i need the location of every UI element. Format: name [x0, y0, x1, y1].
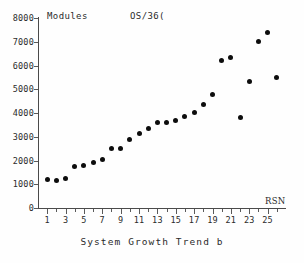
data-point [228, 55, 233, 60]
y-tick-label: 6000 [0, 61, 34, 71]
data-point [72, 164, 77, 169]
data-point [118, 146, 123, 151]
y-tick-label: 0 [0, 203, 34, 213]
x-tick-mark [213, 209, 214, 214]
x-tick-mark [56, 209, 57, 212]
y-tick-label: 2000 [0, 156, 34, 166]
x-tick-label: 15 [170, 215, 181, 225]
y-tick-mark [34, 18, 38, 19]
y-tick-mark [34, 161, 38, 162]
x-tick-mark [66, 209, 67, 214]
x-tick-mark [139, 209, 140, 214]
x-tick-label: 13 [152, 215, 163, 225]
data-point [109, 146, 114, 151]
data-point [54, 178, 59, 183]
x-tick-label: 17 [189, 215, 200, 225]
y-tick-mark [34, 184, 38, 185]
x-tick-mark [176, 209, 177, 214]
x-tick-mark [157, 209, 158, 214]
y-tick-mark [34, 42, 38, 43]
x-tick-mark [194, 209, 195, 214]
x-tick-mark [240, 209, 241, 212]
y-tick-mark [34, 89, 38, 90]
x-tick-mark [84, 209, 85, 214]
x-tick-mark [231, 209, 232, 214]
x-tick-mark [47, 209, 48, 214]
x-tick-mark [93, 209, 94, 212]
y-axis-title: Modules [47, 11, 88, 21]
data-point [164, 120, 169, 125]
x-tick-label: 25 [262, 215, 273, 225]
y-tick-mark [34, 137, 38, 138]
data-point [45, 177, 50, 182]
x-tick-label: 5 [81, 215, 86, 225]
y-tick-label: 3000 [0, 132, 34, 142]
x-tick-label: 19 [207, 215, 218, 225]
chart-figure: Modules OS/36( 0100020003000400050006000… [0, 0, 304, 263]
y-tick-mark [34, 208, 38, 209]
x-tick-mark [268, 209, 269, 214]
x-tick-label: 3 [63, 215, 68, 225]
x-tick-label: 7 [100, 215, 105, 225]
x-tick-mark [203, 209, 204, 212]
x-tick-label: 1 [45, 215, 50, 225]
y-tick-label: 7000 [0, 37, 34, 47]
x-tick-mark [277, 209, 278, 212]
data-point [155, 120, 160, 125]
y-tick-label: 8000 [0, 13, 34, 23]
x-tick-label: 21 [226, 215, 237, 225]
data-point [238, 115, 243, 120]
x-tick-mark [75, 209, 76, 212]
data-point [100, 157, 105, 162]
x-tick-mark [222, 209, 223, 212]
data-point [173, 118, 178, 123]
y-axis-line [38, 17, 39, 209]
x-tick-mark [185, 209, 186, 212]
y-tick-label: 5000 [0, 84, 34, 94]
y-tick-mark [34, 113, 38, 114]
data-point [265, 30, 270, 35]
data-point [256, 39, 261, 44]
x-tick-mark [121, 209, 122, 214]
data-point [192, 110, 197, 115]
x-tick-mark [258, 209, 259, 212]
data-point [201, 102, 206, 107]
data-point [81, 163, 86, 168]
x-axis-title: RSN [265, 196, 286, 206]
x-tick-label: 9 [118, 215, 123, 225]
x-tick-label: 23 [244, 215, 255, 225]
y-tick-label: 1000 [0, 179, 34, 189]
x-tick-mark [148, 209, 149, 212]
data-point [247, 79, 252, 84]
data-point [146, 126, 151, 131]
data-point [91, 160, 96, 165]
x-tick-mark [130, 209, 131, 212]
y-tick-label: 4000 [0, 108, 34, 118]
x-tick-mark [167, 209, 168, 212]
data-point [137, 131, 142, 136]
x-tick-label: 11 [134, 215, 145, 225]
data-point [219, 58, 224, 63]
data-point [210, 92, 215, 97]
y-tick-mark [34, 66, 38, 67]
series-label: OS/36( [130, 11, 165, 21]
x-tick-mark [102, 209, 103, 214]
x-tick-mark [111, 209, 112, 212]
x-tick-mark [249, 209, 250, 214]
data-point [63, 176, 68, 181]
data-point [274, 75, 279, 80]
data-point [182, 114, 187, 119]
figure-caption: System Growth Trend b [0, 236, 304, 247]
data-point [127, 137, 132, 142]
